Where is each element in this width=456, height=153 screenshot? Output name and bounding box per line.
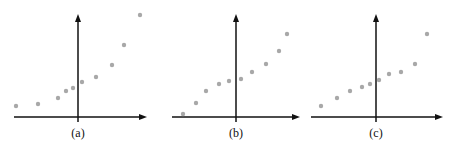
data-point (227, 79, 231, 83)
data-point (138, 13, 142, 17)
data-point (80, 80, 84, 84)
data-point (110, 63, 114, 67)
data-point (360, 85, 364, 89)
x-arrow-icon (435, 114, 443, 120)
data-point (319, 104, 323, 108)
y-arrow-icon (75, 14, 81, 22)
data-point (335, 96, 339, 100)
data-point (36, 102, 40, 106)
data-point (64, 89, 68, 93)
data-point (348, 89, 352, 93)
data-point (368, 82, 372, 86)
panel-b (172, 14, 300, 122)
data-point (94, 75, 98, 79)
data-point (122, 43, 126, 47)
data-point (56, 96, 60, 100)
y-arrow-icon (373, 14, 379, 22)
panel-label: (a) (58, 126, 98, 141)
x-arrow-icon (292, 114, 300, 120)
data-point (14, 104, 18, 108)
data-point (204, 89, 208, 93)
data-point (277, 49, 281, 53)
data-point (264, 62, 268, 66)
data-point (217, 82, 221, 86)
panel-a (14, 13, 147, 122)
data-point (250, 70, 254, 74)
data-point (413, 62, 417, 66)
data-point (387, 72, 391, 76)
x-arrow-icon (139, 114, 147, 120)
panel-label: (b) (216, 126, 256, 141)
panel-c (311, 14, 443, 122)
data-point (285, 32, 289, 36)
data-point (425, 32, 429, 36)
data-point (194, 101, 198, 105)
data-point (181, 112, 185, 116)
panel-label: (c) (356, 126, 396, 141)
data-point (399, 70, 403, 74)
data-point (239, 77, 243, 81)
data-point (377, 78, 381, 82)
y-arrow-icon (233, 14, 239, 22)
data-point (71, 86, 75, 90)
